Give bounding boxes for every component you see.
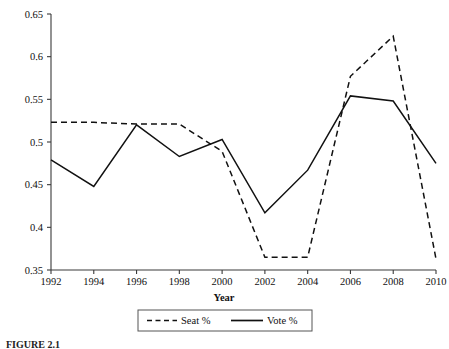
x-axis-tick-label: 1998 [169, 277, 190, 288]
x-axis-tick-label: 2010 [426, 277, 447, 288]
legend-label-vote-pct: Vote % [267, 315, 298, 326]
axes-group [47, 14, 436, 274]
x-axis-tick-label: 2002 [254, 277, 275, 288]
figure-chart: 0.650.60.550.50.450.40.35 19921994199619… [0, 0, 449, 349]
x-axis-tick-label: 1994 [83, 277, 105, 288]
y-axis-tick-label: 0.65 [25, 10, 43, 21]
y-axis-tick-label: 0.5 [30, 138, 43, 149]
chart-legend: Seat % Vote % [138, 310, 312, 331]
figure-caption: FIGURE 2.1 [6, 339, 60, 349]
line-chart-canvas: 0.650.60.550.50.450.40.35 19921994199619… [0, 0, 449, 349]
y-axis-tick-label: 0.55 [25, 95, 43, 106]
legend-label-seat-pct: Seat % [181, 315, 211, 326]
series-line-vote-pct [51, 96, 436, 213]
y-axis-tick-label: 0.4 [30, 223, 44, 234]
figure-caption-text: FIGURE 2.1 [6, 339, 60, 349]
x-axis-ticks [51, 270, 436, 274]
x-axis-tick-label: 2000 [212, 277, 233, 288]
y-axis-tick-label: 0.35 [25, 266, 43, 277]
x-axis-tick-label: 2004 [297, 277, 319, 288]
x-axis-tick-label: 2008 [383, 277, 404, 288]
x-axis-title: Year [214, 292, 235, 303]
y-axis-ticks [47, 14, 51, 270]
y-axis-tick-label: 0.45 [25, 180, 43, 191]
y-axis-tick-labels: 0.650.60.550.50.450.40.35 [25, 10, 44, 277]
x-axis-tick-label: 1996 [126, 277, 147, 288]
x-axis-tick-labels: 1992199419961998200020022004200620082010 [41, 277, 447, 288]
series-group [51, 36, 436, 259]
series-line-seat-pct [51, 36, 436, 259]
x-axis-tick-label: 2006 [340, 277, 361, 288]
y-axis-tick-label: 0.6 [30, 52, 43, 63]
x-axis-tick-label: 1992 [41, 277, 62, 288]
